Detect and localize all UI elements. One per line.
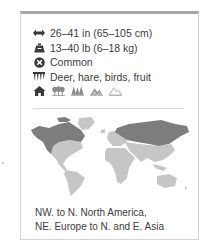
- species-info-card: 26–41 in (65–105 cm) 13–40 lb (6–18 kg) …: [20, 11, 199, 240]
- divider: [33, 108, 184, 109]
- diet-icon: [33, 72, 45, 82]
- diet-text: Deer, hare, birds, fruit: [50, 71, 151, 83]
- fact-length: 26–41 in (65–105 cm): [33, 26, 152, 41]
- range-line-1: NW. to N. North America,: [35, 206, 164, 220]
- status-text: Common: [50, 56, 93, 68]
- mountain-icon: [90, 86, 103, 96]
- length-text: 26–41 in (65–105 cm): [50, 27, 152, 39]
- status-icon: [33, 57, 45, 67]
- fact-diet: Deer, hare, birds, fruit: [33, 70, 152, 85]
- range-description: NW. to N. North America, NE. Europe to N…: [35, 206, 164, 234]
- deciduous-forest-icon: [52, 86, 65, 96]
- fact-status: Common: [33, 55, 152, 70]
- tundra-icon: [109, 86, 122, 96]
- range-map: [29, 116, 191, 198]
- weight-icon: [33, 43, 45, 53]
- range-line-2: NE. Europe to N. and E. Asia: [35, 220, 164, 234]
- habitat-icons: [33, 85, 152, 97]
- length-arrows-icon: [33, 28, 45, 38]
- weight-text: 13–40 lb (6–18 kg): [50, 42, 138, 54]
- facts-list: 26–41 in (65–105 cm) 13–40 lb (6–18 kg) …: [33, 26, 152, 97]
- home-icon: [33, 86, 46, 96]
- stray-mark: [2, 162, 4, 164]
- coniferous-forest-icon: [71, 86, 84, 96]
- fact-weight: 13–40 lb (6–18 kg): [33, 41, 152, 56]
